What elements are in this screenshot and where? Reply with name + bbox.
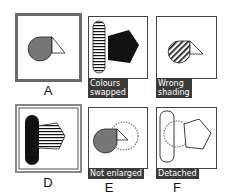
outlined-bar-shape <box>160 111 174 162</box>
label-d: D <box>38 175 58 190</box>
panel-a-figure <box>15 13 82 82</box>
label-a: A <box>38 83 58 98</box>
caption-colours-swapped: Colours swapped <box>88 78 128 98</box>
teardrop-shape <box>93 129 117 153</box>
panel-b-figure <box>88 16 148 79</box>
panel-d[interactable] <box>15 104 82 173</box>
panel-f[interactable] <box>156 107 217 169</box>
panel-c-figure <box>156 16 217 79</box>
panel-b[interactable] <box>88 16 148 79</box>
caption-not-enlarged: Not enlarged <box>88 168 144 179</box>
panel-e[interactable] <box>88 107 148 169</box>
striped-bar-shape <box>93 21 105 73</box>
panel-a[interactable] <box>15 13 82 82</box>
panel-d-figure <box>15 104 82 173</box>
panel-c[interactable] <box>156 16 217 79</box>
black-bar-shape <box>25 115 39 165</box>
teardrop-shape <box>28 37 52 61</box>
caption-detached: Detached <box>156 168 199 179</box>
panel-f-figure <box>156 107 217 169</box>
caption-wrong-shading: Wrong shading <box>156 78 192 98</box>
hatched-teardrop-shape <box>168 41 190 63</box>
label-f: F <box>167 180 187 192</box>
label-e: E <box>99 180 119 192</box>
panel-e-figure <box>88 107 148 169</box>
